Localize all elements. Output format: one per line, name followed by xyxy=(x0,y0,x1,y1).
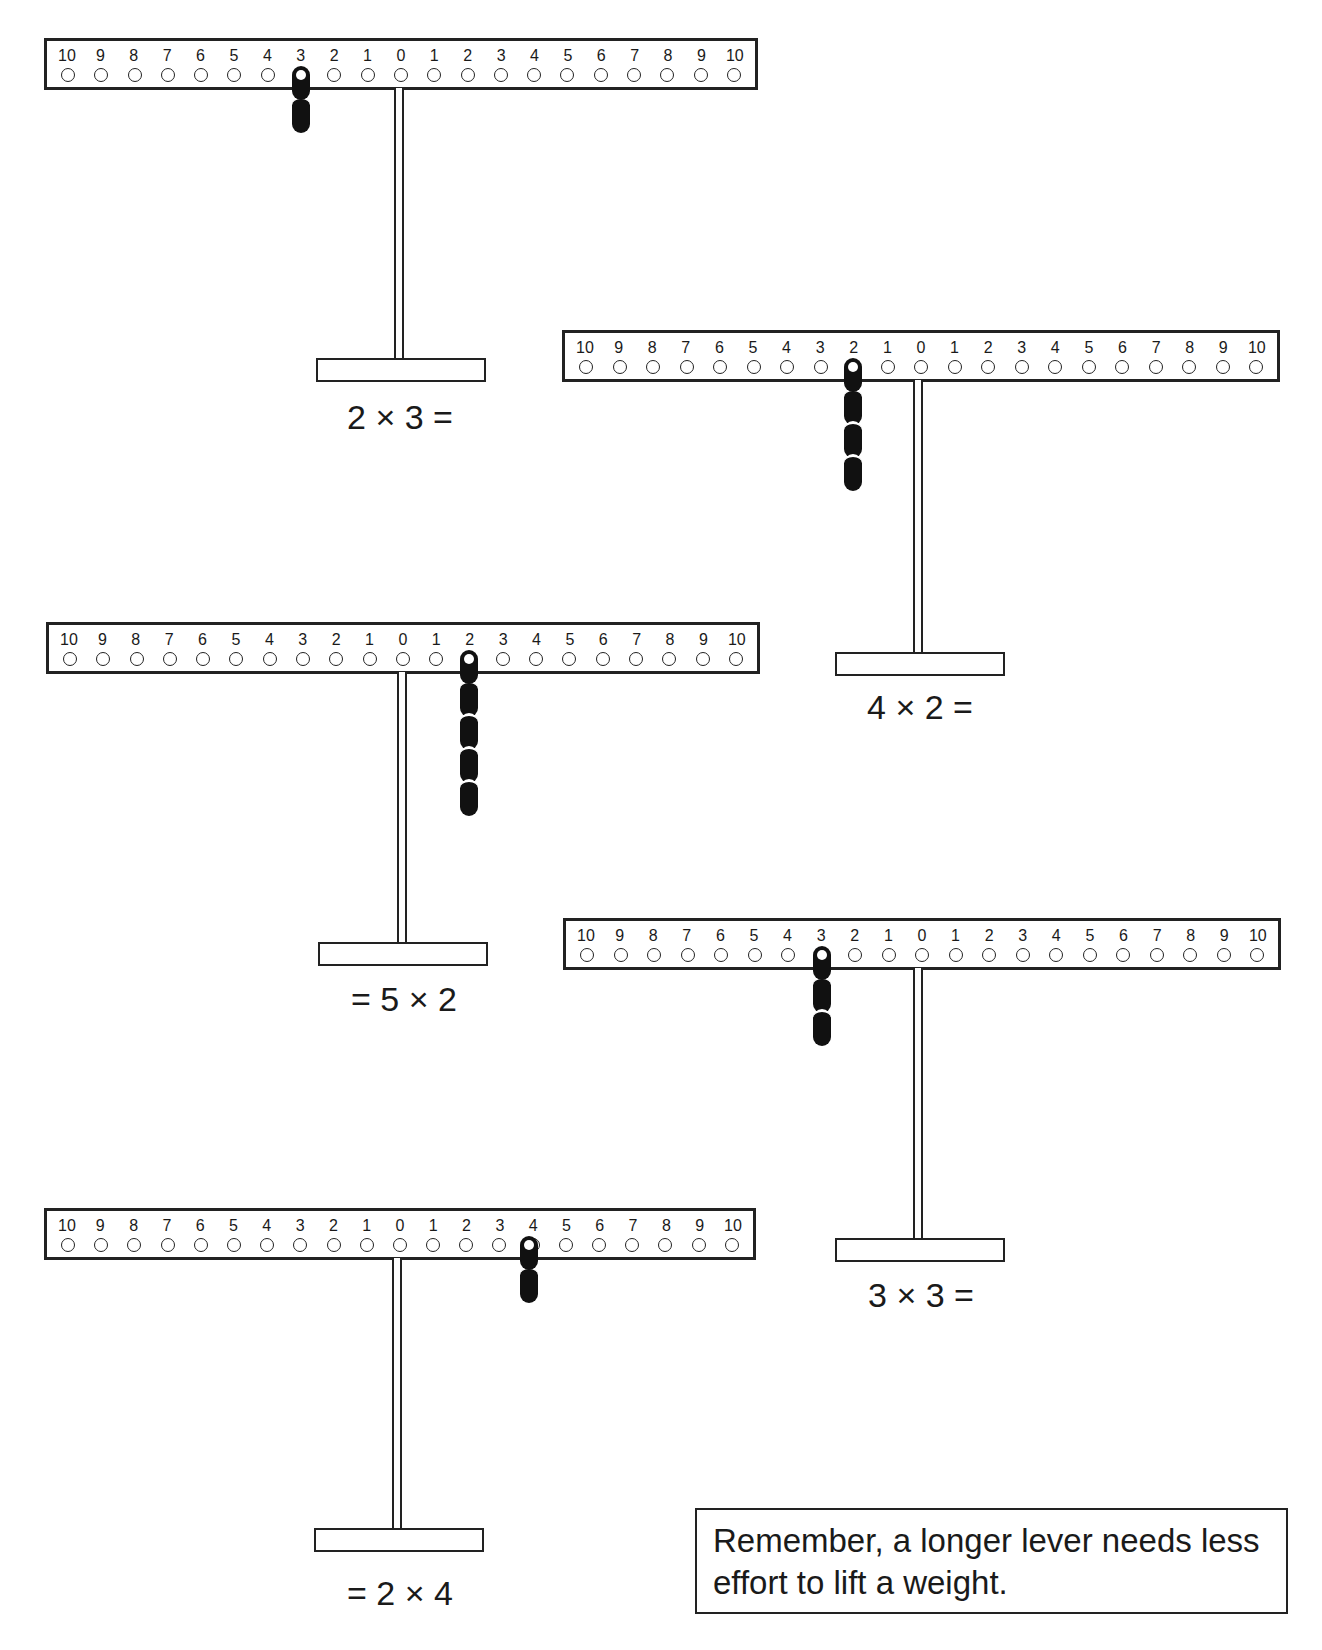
scale-label: 9 xyxy=(693,631,713,649)
scale-label: 7 xyxy=(157,1217,177,1235)
scale-label: 1 xyxy=(423,1217,443,1235)
scale-label: 9 xyxy=(90,1217,110,1235)
scale-label: 5 xyxy=(556,1217,576,1235)
scale-label: 6 xyxy=(191,47,211,65)
scale-label: 1 xyxy=(878,927,898,945)
scale-label: 6 xyxy=(190,1217,210,1235)
scale-label: 0 xyxy=(912,927,932,945)
scale-label: 7 xyxy=(625,47,645,65)
scale-label: 2 xyxy=(978,339,998,357)
scale-label: 4 xyxy=(777,339,797,357)
weight-stack xyxy=(844,358,862,491)
equation: 4 × 2 = xyxy=(820,688,1020,727)
scale-label: 5 xyxy=(224,47,244,65)
scale-label: 1 xyxy=(357,1217,377,1235)
hole-row xyxy=(47,1238,753,1252)
lever-base xyxy=(318,942,488,966)
lever-base xyxy=(835,1238,1005,1262)
weight-stack xyxy=(292,66,310,133)
scale-label: 5 xyxy=(558,47,578,65)
equation: = 2 × 4 xyxy=(300,1574,500,1613)
weight-stack xyxy=(460,650,478,816)
scale-label: 9 xyxy=(92,631,112,649)
scale-label: 8 xyxy=(656,1217,676,1235)
scale-label: 4 xyxy=(523,1217,543,1235)
scale-label: 8 xyxy=(642,339,662,357)
scale-label: 7 xyxy=(623,1217,643,1235)
scale-label: 1 xyxy=(360,631,380,649)
scale-label: 10 xyxy=(57,47,77,65)
lever-beam: 10987654321012345678910 xyxy=(562,330,1280,382)
scale-label: 9 xyxy=(610,927,630,945)
scale-label: 6 xyxy=(593,631,613,649)
scale-label: 4 xyxy=(1046,927,1066,945)
scale-label: 6 xyxy=(709,339,729,357)
scale-label: 10 xyxy=(723,1217,743,1235)
lever-beam: 10987654321012345678910 xyxy=(46,622,760,674)
lever-stem xyxy=(394,88,404,360)
scale-label: 6 xyxy=(710,927,730,945)
scale-label: 3 xyxy=(490,1217,510,1235)
scale-label: 7 xyxy=(1147,927,1167,945)
scale-label: 9 xyxy=(690,1217,710,1235)
scale-label: 8 xyxy=(124,1217,144,1235)
equation: = 5 × 2 xyxy=(304,980,504,1019)
scale-label: 2 xyxy=(458,47,478,65)
scale-label: 2 xyxy=(844,339,864,357)
scale-label: 3 xyxy=(493,631,513,649)
lever-beam: 10987654321012345678910 xyxy=(44,38,758,90)
scale-label: 3 xyxy=(291,47,311,65)
weight-stack xyxy=(520,1236,538,1303)
scale-label: 4 xyxy=(524,47,544,65)
hole-row xyxy=(565,360,1277,374)
lever-beam: 10987654321012345678910 xyxy=(44,1208,756,1260)
scale-label: 5 xyxy=(223,1217,243,1235)
lever-stem xyxy=(913,968,923,1240)
scale-label: 8 xyxy=(658,47,678,65)
scale-label: 9 xyxy=(90,47,110,65)
scale-label: 6 xyxy=(1114,927,1134,945)
scale-label: 1 xyxy=(877,339,897,357)
scale-label: 6 xyxy=(590,1217,610,1235)
scale-label: 3 xyxy=(491,47,511,65)
equation: 3 × 3 = xyxy=(821,1276,1021,1315)
scale-label: 9 xyxy=(1214,927,1234,945)
scale-label: 4 xyxy=(526,631,546,649)
scale-label: 2 xyxy=(460,631,480,649)
scale-label: 5 xyxy=(560,631,580,649)
scale-label: 6 xyxy=(193,631,213,649)
scale-label: 7 xyxy=(1146,339,1166,357)
scale-label: 7 xyxy=(677,927,697,945)
scale-labels: 10987654321012345678910 xyxy=(49,631,757,649)
scale-label: 4 xyxy=(257,47,277,65)
lever-base xyxy=(316,358,486,382)
lever-stem xyxy=(392,1258,402,1530)
scale-label: 0 xyxy=(391,47,411,65)
scale-label: 10 xyxy=(727,631,747,649)
hole-row xyxy=(47,68,755,82)
scale-label: 10 xyxy=(1248,927,1268,945)
scale-label: 2 xyxy=(323,1217,343,1235)
lever-stem xyxy=(913,380,923,654)
hole-row xyxy=(566,948,1278,962)
scale-label: 7 xyxy=(627,631,647,649)
scale-label: 8 xyxy=(643,927,663,945)
scale-label: 1 xyxy=(946,927,966,945)
scale-label: 9 xyxy=(691,47,711,65)
scale-label: 10 xyxy=(1247,339,1267,357)
scale-label: 2 xyxy=(457,1217,477,1235)
scale-label: 8 xyxy=(660,631,680,649)
scale-label: 0 xyxy=(390,1217,410,1235)
scale-label: 9 xyxy=(1213,339,1233,357)
scale-label: 1 xyxy=(945,339,965,357)
scale-label: 9 xyxy=(609,339,629,357)
scale-label: 3 xyxy=(811,927,831,945)
scale-label: 10 xyxy=(575,339,595,357)
scale-label: 5 xyxy=(743,339,763,357)
scale-label: 2 xyxy=(324,47,344,65)
scale-labels: 10987654321012345678910 xyxy=(47,1217,753,1235)
scale-label: 10 xyxy=(576,927,596,945)
scale-label: 2 xyxy=(845,927,865,945)
scale-label: 4 xyxy=(778,927,798,945)
scale-labels: 10987654321012345678910 xyxy=(566,927,1278,945)
